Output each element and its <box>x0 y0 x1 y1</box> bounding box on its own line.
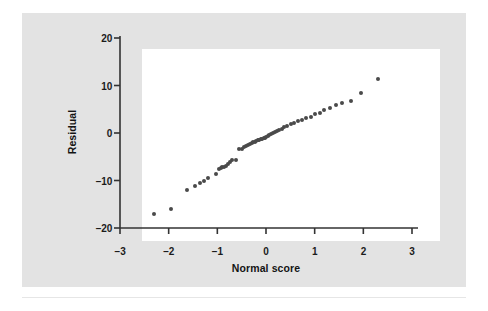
scatter-point <box>328 106 332 110</box>
y-tick-label: 20 <box>88 33 112 44</box>
x-tick-label: 0 <box>263 246 268 257</box>
figure-panel-background <box>22 13 466 287</box>
x-tick-label: 3 <box>409 246 414 257</box>
y-tick-label: −20 <box>88 223 112 234</box>
x-tick-label: 1 <box>312 246 317 257</box>
plot-drawing-area <box>142 49 440 241</box>
scatter-point <box>234 158 238 162</box>
scatter-point <box>359 91 363 95</box>
scatter-point <box>185 188 189 192</box>
x-axis-title: Normal score <box>232 262 300 274</box>
x-tick-label: −2 <box>163 246 174 257</box>
bottom-divider-rule <box>22 297 466 298</box>
y-axis-title: Residual <box>66 110 78 155</box>
y-tick-label: −10 <box>88 175 112 186</box>
y-tick-label: 0 <box>88 128 112 139</box>
x-tick-label: 2 <box>361 246 366 257</box>
scatter-point <box>309 115 313 119</box>
scatter-point <box>318 111 322 115</box>
normal-probability-plot-figure: −20−1001020−3−2−10123 Residual Normal sc… <box>0 0 488 311</box>
scatter-point <box>206 176 210 180</box>
scatter-point <box>152 212 156 216</box>
x-tick-label: −1 <box>212 246 223 257</box>
y-tick-label: 10 <box>88 80 112 91</box>
x-tick-label: −3 <box>114 246 125 257</box>
scatter-point <box>349 99 353 103</box>
